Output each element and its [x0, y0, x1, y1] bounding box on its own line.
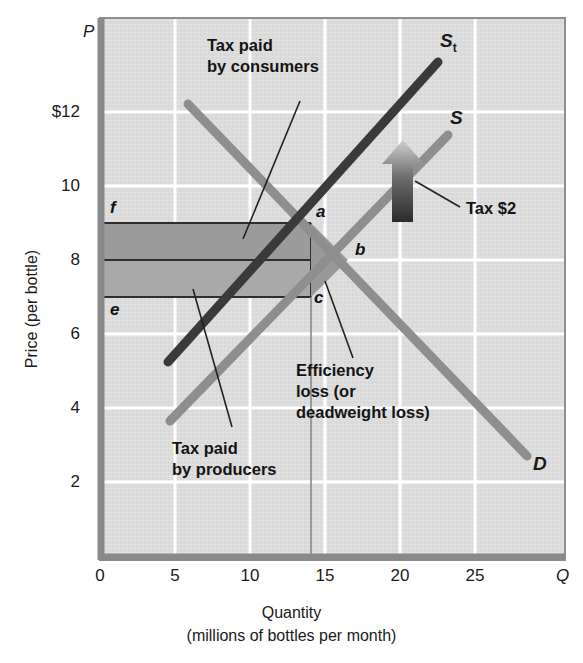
point-label-c: c — [314, 288, 323, 308]
tax-paid-by-producers-region — [100, 260, 311, 297]
point-label-f: f — [110, 198, 116, 218]
tax-incidence-chart: Price (per bottle) Quantity (millions of… — [0, 0, 583, 663]
plot-svg — [0, 0, 583, 663]
annotation-tax-amount: Tax $2 — [466, 198, 516, 219]
curve-label-demand: D — [533, 453, 547, 475]
annotation-tax-paid-by-consumers: Tax paid by consumers — [207, 35, 319, 77]
annotation-tax-paid-by-producers: Tax paid by producers — [172, 438, 277, 480]
point-label-a: a — [316, 202, 325, 222]
point-label-e: e — [110, 300, 119, 320]
curve-label-supply: S — [450, 107, 463, 129]
point-label-b: b — [355, 240, 365, 260]
curve-label-supply-tax: St — [440, 30, 457, 55]
annotation-efficiency-loss: Efficiency loss (or deadweight loss) — [296, 360, 430, 423]
